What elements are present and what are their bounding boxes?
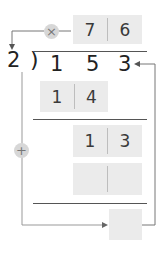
remainder-box[interactable] (109, 209, 142, 240)
partial-product-2-ones: 3 (108, 125, 142, 157)
partial-product-2-box: 1 3 (73, 125, 142, 157)
dividend-digit-hundreds: 1 (50, 54, 63, 75)
subtraction-rule-2 (33, 203, 147, 204)
multiply-icon: × (44, 24, 59, 39)
quotient-digit-tens: 7 (73, 15, 107, 44)
blank-answer-tens[interactable] (73, 163, 107, 195)
partial-product-1-ones: 4 (75, 81, 108, 112)
subtraction-rule-1 (33, 119, 147, 120)
blank-answer-ones[interactable] (108, 163, 142, 195)
blank-answer-box[interactable] (73, 163, 142, 195)
partial-product-2-tens: 1 (73, 125, 107, 157)
dividend-digit-ones: 3 (118, 54, 131, 75)
quotient-box: 7 6 (73, 15, 142, 44)
add-icon: + (14, 143, 29, 158)
partial-product-1-tens: 1 (40, 81, 74, 112)
division-bracket: ) (30, 49, 39, 71)
partial-product-1-box: 1 4 (40, 81, 108, 112)
quotient-digit-ones: 6 (108, 15, 142, 44)
divisor: 2 (7, 50, 20, 71)
dividend-digit-tens: 5 (86, 54, 99, 75)
